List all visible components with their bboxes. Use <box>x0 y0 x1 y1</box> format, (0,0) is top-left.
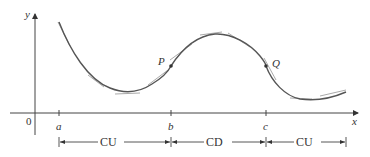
interval-label-cd: CD <box>206 135 223 149</box>
function-curve <box>59 22 346 100</box>
interval-label-cu-1: CU <box>100 135 117 149</box>
tick-label-c: c <box>263 120 268 132</box>
interval-label-cu-2: CU <box>296 135 313 149</box>
tick-label-a: a <box>56 120 62 132</box>
y-axis-label: y <box>24 8 30 20</box>
tick-label-b: b <box>168 120 174 132</box>
diagram-canvas: y x 0 a b c <box>0 0 370 157</box>
concavity-diagram: y x 0 a b c <box>0 0 370 157</box>
x-axis-label: x <box>351 115 357 127</box>
point-p: P <box>157 55 173 68</box>
point-q-label: Q <box>272 57 280 69</box>
x-axis: x 0 <box>10 113 358 127</box>
tangent-lines <box>58 22 346 99</box>
point-p-label: P <box>157 55 165 67</box>
origin-label: 0 <box>26 115 32 127</box>
